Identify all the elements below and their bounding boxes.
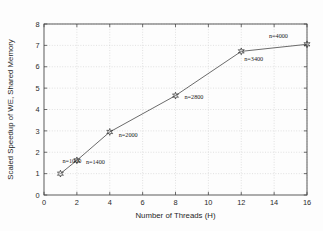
x-tick-label: 6: [141, 198, 145, 207]
y-tick-label: 2: [35, 148, 39, 157]
x-tick-label: 14: [270, 198, 278, 207]
point-annotation: n=4000: [269, 32, 288, 39]
y-tick-label: 3: [35, 127, 39, 136]
point-annotation: n=3400: [244, 55, 263, 62]
y-tick-label: 7: [35, 41, 39, 50]
y-tick-label: 0: [35, 191, 39, 200]
data-line-series: [60, 44, 307, 173]
point-annotation: n=2000: [119, 131, 138, 138]
x-tick-label: 0: [42, 198, 46, 207]
speedup-line-chart: 0246810121416 012345678 n=1000n=1400n=20…: [0, 0, 323, 231]
y-tick-label: 1: [35, 169, 39, 178]
data-point-markers: [57, 41, 309, 177]
y-tick-label: 4: [35, 105, 39, 114]
x-tick-labels: 0246810121416: [42, 198, 311, 207]
point-annotation: n=1400: [86, 158, 105, 165]
x-tick-label: 10: [204, 198, 212, 207]
gridlines: [44, 24, 307, 195]
x-tick-label: 12: [237, 198, 245, 207]
chart-plot-area: 0246810121416 012345678 n=1000n=1400n=20…: [0, 0, 323, 231]
point-annotation: n=2800: [185, 93, 204, 100]
figure-canvas: 0246810121416 012345678 n=1000n=1400n=20…: [0, 0, 323, 231]
y-tick-label: 6: [35, 62, 39, 71]
y-tick-label: 8: [35, 20, 39, 29]
x-tick-label: 16: [303, 198, 311, 207]
y-tick-labels: 012345678: [35, 20, 39, 200]
x-tick-label: 4: [108, 198, 112, 207]
point-annotation: n=1000: [62, 157, 81, 164]
x-tick-label: 8: [173, 198, 177, 207]
y-axis-title: Scaled Speedup of WE, Shared Memory: [6, 39, 15, 180]
y-tick-label: 5: [35, 84, 39, 93]
x-axis-title: Number of Threads (H): [135, 211, 215, 220]
x-tick-label: 2: [75, 198, 79, 207]
